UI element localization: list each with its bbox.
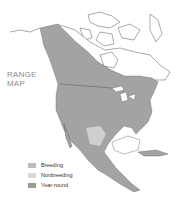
legend-item-breeding: Breeding — [28, 160, 73, 170]
arctic-islands — [80, 12, 162, 46]
legend-label: Nonbreeding — [41, 172, 73, 178]
caribbean-islands — [138, 150, 168, 156]
title-line-1: RANGE — [7, 70, 36, 79]
title-line-2: MAP — [7, 79, 36, 88]
legend-item-year-round: Year-round — [28, 180, 73, 190]
nonbreeding-swatch — [28, 173, 36, 178]
legend-item-nonbreeding: Nonbreeding — [28, 170, 73, 180]
year-round-swatch — [28, 183, 36, 188]
breeding-swatch — [28, 163, 36, 168]
range-map-title: RANGE MAP — [7, 70, 36, 88]
legend-label: Year-round — [41, 182, 68, 188]
legend: Breeding Nonbreeding Year-round — [28, 160, 73, 190]
legend-label: Breeding — [41, 162, 63, 168]
gulf-of-mexico — [112, 136, 140, 154]
alaska-coast — [10, 28, 40, 32]
